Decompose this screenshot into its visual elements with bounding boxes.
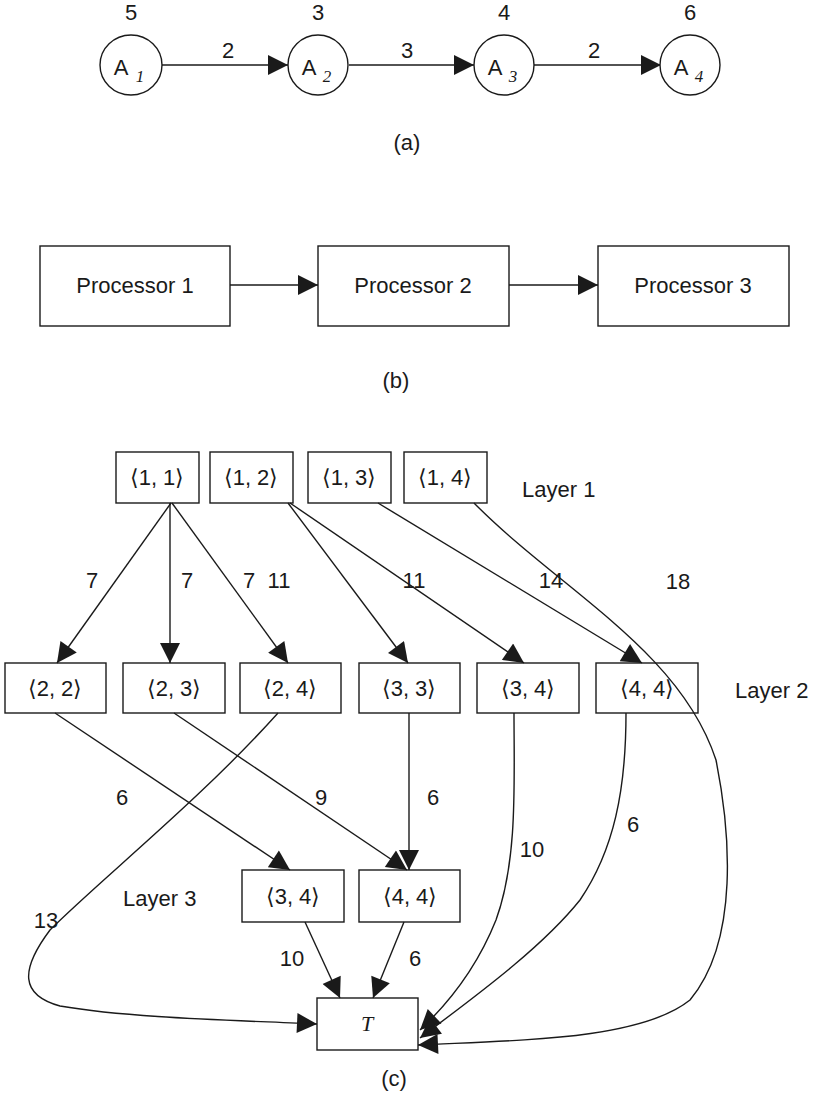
- weight-12-34: 11: [403, 568, 426, 593]
- node-label: A: [674, 55, 689, 80]
- edge-11-22: [57, 503, 171, 663]
- node-subscript: 2: [323, 67, 332, 86]
- edge-24-t: [29, 713, 317, 1024]
- weight-24-t: 13: [34, 908, 58, 933]
- layer-1-label: Layer 1: [522, 477, 595, 502]
- node-label: A: [488, 55, 503, 80]
- l3-label-4-4: ⟨4, 4⟩: [383, 884, 438, 909]
- node-a1: 5 A 1: [100, 0, 162, 95]
- weight-14-t: 18: [666, 569, 690, 594]
- edge-weight-a1-a2: 2: [222, 38, 234, 63]
- processor-3-label: Processor 3: [634, 273, 751, 298]
- caption-c: (c): [381, 1066, 407, 1091]
- node-a4: 6 A 4: [660, 0, 720, 95]
- edge-23-l3-44: [174, 713, 407, 870]
- edge-weight-a2-a3: 3: [401, 38, 413, 63]
- edge-l3-44-t: [373, 922, 404, 998]
- panel-a-chain-graph: 2 3 2 5 A 1 3 A 2 4 A 3 6 A 4 (a): [100, 0, 720, 155]
- node-weight: 4: [498, 0, 510, 25]
- l1-label-1-3: ⟨1, 3⟩: [322, 465, 377, 490]
- l2-label-2-2: ⟨2, 2⟩: [28, 676, 83, 701]
- weight-33-l3-44: 6: [427, 785, 439, 810]
- figure-canvas: 2 3 2 5 A 1 3 A 2 4 A 3 6 A 4 (a): [0, 0, 831, 1101]
- edge-12-33: [288, 503, 408, 663]
- weight-22-l3-34: 6: [116, 785, 128, 810]
- l2-label-2-3: ⟨2, 3⟩: [147, 676, 202, 701]
- l2-label-4-4: ⟨4, 4⟩: [620, 676, 675, 701]
- edge-l3-34-t: [305, 922, 340, 998]
- node-a3: 4 A 3: [474, 0, 534, 95]
- node-weight: 6: [684, 0, 696, 25]
- edge-22-l3-34: [55, 713, 290, 870]
- l2-label-3-3: ⟨3, 3⟩: [382, 676, 437, 701]
- node-weight: 5: [125, 0, 137, 25]
- weight-34-t: 10: [520, 837, 544, 862]
- layer-3-label: Layer 3: [123, 886, 196, 911]
- weight-11-22: 7: [86, 568, 98, 593]
- node-weight: 3: [312, 0, 324, 25]
- weight-44-t: 6: [627, 812, 639, 837]
- node-label: A: [114, 55, 129, 80]
- node-label: A: [302, 55, 317, 80]
- panel-c-layered-graph: ⟨1, 1⟩ ⟨1, 2⟩ ⟨1, 3⟩ ⟨1, 4⟩ Layer 1 ⟨2, …: [5, 452, 808, 1091]
- node-subscript: 4: [695, 67, 704, 86]
- weight-11-23: 7: [181, 568, 193, 593]
- processor-2-label: Processor 2: [354, 273, 471, 298]
- caption-a: (a): [394, 130, 421, 155]
- l1-label-1-4: ⟨1, 4⟩: [418, 465, 473, 490]
- processor-1-label: Processor 1: [76, 273, 193, 298]
- weight-23-l3-44: 9: [315, 785, 327, 810]
- caption-b: (b): [383, 368, 410, 393]
- weight-l3-34-t: 10: [280, 946, 304, 971]
- layer-2-label: Layer 2: [735, 678, 808, 703]
- l1-label-1-1: ⟨1, 1⟩: [130, 465, 185, 490]
- weight-11-24: 7: [243, 568, 255, 593]
- weight-l3-44-t: 6: [409, 946, 421, 971]
- l2-label-2-4: ⟨2, 4⟩: [263, 676, 318, 701]
- weight-12-33: 11: [268, 568, 291, 593]
- edge-weight-a3-a4: 2: [588, 38, 600, 63]
- node-subscript: 1: [136, 67, 145, 86]
- node-subscript: 3: [508, 67, 518, 86]
- terminal-label: T: [361, 1011, 375, 1036]
- node-a2: 3 A 2: [288, 0, 348, 95]
- panel-b-processor-pipeline: Processor 1 Processor 2 Processor 3 (b): [40, 246, 789, 393]
- l3-label-3-4: ⟨3, 4⟩: [266, 884, 321, 909]
- l1-label-1-2: ⟨1, 2⟩: [224, 465, 279, 490]
- l2-label-3-4: ⟨3, 4⟩: [501, 676, 556, 701]
